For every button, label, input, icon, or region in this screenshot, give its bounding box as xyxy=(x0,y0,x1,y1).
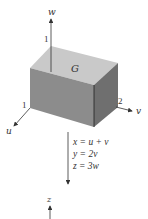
equation-x: x = u + v xyxy=(72,137,109,147)
v-axis: v 2 xyxy=(116,96,141,116)
transformation-equations: x = u + v y = 2v z = 3w xyxy=(72,137,109,171)
u-axis: u 1 xyxy=(6,100,30,136)
v-axis-label: v xyxy=(136,106,141,116)
w-axis-tick: 1 xyxy=(44,34,49,44)
u-axis-label: u xyxy=(6,126,12,136)
u-axis-tick: 1 xyxy=(22,100,27,110)
region-label-G: G xyxy=(71,63,79,74)
w-axis-label: w xyxy=(48,7,56,17)
equation-y: y = 2v xyxy=(72,149,98,159)
z-axis: z xyxy=(46,195,52,219)
equation-z: z = 3w xyxy=(72,161,100,171)
z-axis-label: z xyxy=(46,195,52,204)
change-of-variables-diagram: w 1 u 1 v 2 G x = u + v y = 2v z = 3w z xyxy=(0,0,148,219)
v-axis-tick: 2 xyxy=(118,96,123,106)
box-G xyxy=(30,46,118,127)
